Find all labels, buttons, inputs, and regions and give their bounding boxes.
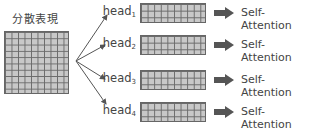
self-attention-4: Self-Attention — [241, 105, 310, 131]
head-2-label: head2 — [84, 36, 136, 51]
block-arrow-icon — [214, 74, 236, 86]
head-3-grid — [140, 70, 206, 90]
head-4-grid — [140, 102, 206, 122]
head-4-label: head4 — [84, 103, 136, 118]
head-3-label: head3 — [84, 71, 136, 86]
block-arrow-icon — [214, 7, 236, 19]
self-attention-2: Self-Attention — [241, 38, 310, 64]
head-1-label: head1 — [84, 4, 136, 19]
head-2-grid — [140, 35, 206, 55]
head-1-grid — [140, 3, 206, 23]
block-arrow-icon — [214, 39, 236, 51]
block-arrow-icon — [214, 106, 236, 118]
self-attention-3: Self-Attention — [241, 73, 310, 99]
self-attention-1: Self-Attention — [241, 6, 310, 32]
